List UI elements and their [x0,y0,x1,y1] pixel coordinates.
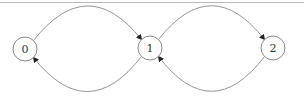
edge-1-to-2 [159,6,265,40]
node-1: 1 [138,36,162,60]
state-diagram: 0 1 2 [0,0,304,98]
edge-0-to-1 [34,6,142,41]
node-2: 2 [261,36,285,60]
node-1-label: 1 [147,42,154,55]
node-0: 0 [13,37,37,61]
node-0-label: 0 [22,43,29,56]
node-2-label: 2 [270,42,277,55]
edge-1-to-0 [34,57,142,92]
edge-2-to-1 [159,57,265,92]
